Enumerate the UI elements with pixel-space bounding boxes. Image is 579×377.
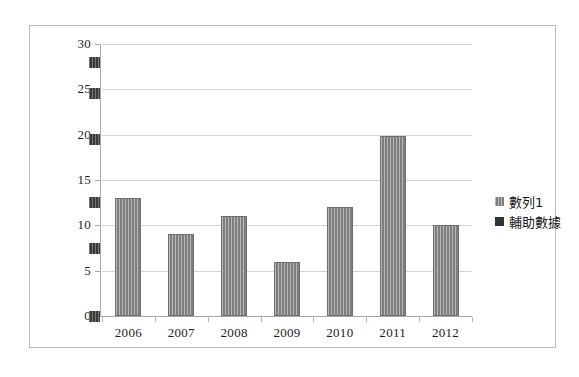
scatter-marker[interactable]	[89, 243, 100, 254]
legend-item-label: 輔助數據	[509, 212, 561, 231]
y-axis-label: 30	[77, 36, 91, 52]
legend-swatch-icon	[495, 197, 504, 206]
gridline	[102, 225, 472, 226]
x-axis-label-2006: 2006	[115, 325, 142, 341]
x-axis-tick	[208, 317, 209, 322]
legend-swatch-icon	[495, 217, 504, 226]
gridline	[102, 89, 472, 90]
bar-2008[interactable]	[221, 216, 247, 316]
bar-2011[interactable]	[380, 136, 406, 316]
y-axis-tick	[95, 44, 101, 45]
bar-2007[interactable]	[168, 234, 194, 316]
x-axis-label-2012: 2012	[432, 325, 459, 341]
legend-item-series2[interactable]: 輔助數據	[495, 211, 579, 231]
y-axis-tick	[95, 225, 101, 226]
x-axis-tick	[419, 317, 420, 322]
x-axis-tick	[313, 317, 314, 322]
legend-item-series1[interactable]: 數列1	[495, 191, 579, 211]
bar-2010[interactable]	[327, 207, 353, 316]
x-axis-label-2007: 2007	[168, 325, 195, 341]
scatter-marker[interactable]	[89, 197, 100, 208]
x-axis-label-2010: 2010	[326, 325, 353, 341]
plot-area: 051015202530 200620072008200920102011201…	[102, 44, 472, 316]
y-axis-tick	[95, 180, 101, 181]
scatter-marker[interactable]	[89, 311, 100, 322]
x-axis-tick	[366, 317, 367, 322]
scatter-marker[interactable]	[89, 57, 100, 68]
gridline	[102, 44, 472, 45]
y-axis-label: 10	[77, 217, 91, 233]
legend-item-label: 數列1	[509, 192, 543, 211]
chart-legend: 數列1 輔助數據	[495, 191, 579, 231]
x-axis-label-2011: 2011	[379, 325, 406, 341]
bar-2012[interactable]	[433, 225, 459, 316]
x-axis-tick	[261, 317, 262, 322]
bar-2009[interactable]	[274, 262, 300, 316]
y-axis-label: 5	[84, 263, 91, 279]
gridline	[102, 135, 472, 136]
chart-frame: 051015202530 200620072008200920102011201…	[29, 25, 556, 348]
gridline	[102, 180, 472, 181]
y-axis-label: 15	[77, 172, 91, 188]
x-axis-label-2008: 2008	[221, 325, 248, 341]
scatter-marker[interactable]	[89, 88, 100, 99]
y-axis-tick	[95, 271, 101, 272]
x-axis-tick	[155, 317, 156, 322]
scatter-marker[interactable]	[89, 134, 100, 145]
gridline	[102, 316, 472, 317]
x-axis-tick	[472, 317, 473, 322]
x-axis-tick	[102, 317, 103, 322]
x-axis-label-2009: 2009	[273, 325, 300, 341]
bar-2006[interactable]	[115, 198, 141, 316]
